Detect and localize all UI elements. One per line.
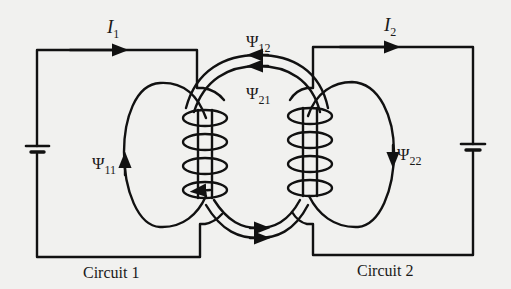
flux-loop-psi11 xyxy=(124,83,206,227)
coupled-circuits-diagram: I1 I2 Ψ12 Ψ21 Ψ11 Ψ22 Circuit 1 Circuit … xyxy=(0,0,511,289)
flux-subscript: 21 xyxy=(259,93,271,107)
coil-1-icon xyxy=(183,110,227,198)
flux-label-psi21: Ψ21 xyxy=(246,84,271,104)
flux-loop-psi22 xyxy=(308,82,394,227)
flux-symbol: Ψ xyxy=(92,154,105,173)
flux-symbol: Ψ xyxy=(246,84,259,103)
flux-symbol: Ψ xyxy=(397,145,410,164)
flux-subscript: 22 xyxy=(410,154,422,168)
flux-subscript: 11 xyxy=(105,163,117,177)
flux-label-psi22: Ψ22 xyxy=(397,145,422,165)
coil-2-icon xyxy=(288,108,332,196)
battery-1-icon xyxy=(26,146,49,152)
flux-symbol: Ψ xyxy=(246,32,259,51)
current-subscript: 1 xyxy=(113,27,119,41)
flux-subscript: 12 xyxy=(259,41,271,55)
flux-label-psi11: Ψ11 xyxy=(92,154,116,174)
current-subscript: 2 xyxy=(390,25,396,39)
mutual-flux-arc xyxy=(186,55,328,238)
circuit1-wire xyxy=(37,50,224,257)
current-label-i1: I1 xyxy=(107,16,119,38)
flux-label-psi12: Ψ12 xyxy=(246,32,271,52)
current-label-i2: I2 xyxy=(384,14,396,36)
caption-circuit-1: Circuit 1 xyxy=(83,264,139,282)
battery-2-icon xyxy=(461,144,485,150)
caption-circuit-2: Circuit 2 xyxy=(357,262,413,280)
